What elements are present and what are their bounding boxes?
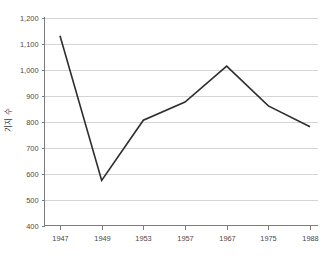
x-axis-tick-label: 1967 bbox=[219, 234, 235, 243]
y-axis-tick-label: 1,100 bbox=[20, 40, 39, 49]
y-axis-title: 기지 수 bbox=[4, 108, 13, 131]
y-axis-tick-label: 1,000 bbox=[20, 66, 39, 75]
x-axis-tick-label: 1947 bbox=[52, 234, 68, 243]
y-axis-tick-label: 700 bbox=[26, 144, 38, 153]
data-series-line bbox=[60, 36, 310, 181]
x-axis-tick-label: 1957 bbox=[177, 234, 193, 243]
y-axis-tick-label: 900 bbox=[26, 92, 38, 101]
y-axis-ticks-group: 4005006007008009001,0001,1001,200 bbox=[20, 14, 45, 231]
y-axis-tick-label: 1,200 bbox=[20, 14, 39, 23]
x-axis-tick-label: 1949 bbox=[94, 234, 110, 243]
y-axis-tick-label: 800 bbox=[26, 118, 38, 127]
y-axis-tick-label: 600 bbox=[26, 170, 38, 179]
y-axis-tick-label: 400 bbox=[26, 222, 38, 231]
x-axis-ticks-group: 1947194919531957196719751988 bbox=[52, 226, 318, 243]
x-axis-tick-label: 1988 bbox=[302, 234, 318, 243]
chart-plot-svg: 4005006007008009001,0001,1001,200 194719… bbox=[0, 0, 334, 261]
line-chart-figure: ··················· 4005006007008009001,… bbox=[0, 0, 334, 261]
x-axis-tick-label: 1975 bbox=[260, 234, 276, 243]
x-axis-tick-label: 1953 bbox=[135, 234, 151, 243]
y-axis-tick-label: 500 bbox=[26, 196, 38, 205]
